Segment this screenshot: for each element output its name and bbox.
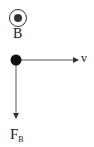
- velocity-label: v: [81, 52, 87, 64]
- magnetic-field-out-of-page-icon: [10, 10, 27, 27]
- magnetic-field-label: B: [13, 27, 22, 41]
- charged-particle-dot: [11, 55, 22, 66]
- force-label-subscript: B: [18, 135, 23, 144]
- diagram-canvas: [0, 0, 94, 147]
- force-label: FB: [10, 127, 24, 144]
